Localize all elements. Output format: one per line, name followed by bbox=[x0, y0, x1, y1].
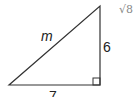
right-triangle-figure bbox=[0, 0, 134, 97]
vertical-leg-label: 6 bbox=[103, 40, 111, 54]
right-angle-marker bbox=[93, 78, 100, 85]
hypotenuse-label: m bbox=[41, 29, 53, 43]
horizontal-leg-label: 7 bbox=[49, 89, 57, 97]
triangle-outline bbox=[9, 6, 100, 85]
partial-sqrt-expression: √8 bbox=[119, 4, 133, 15]
